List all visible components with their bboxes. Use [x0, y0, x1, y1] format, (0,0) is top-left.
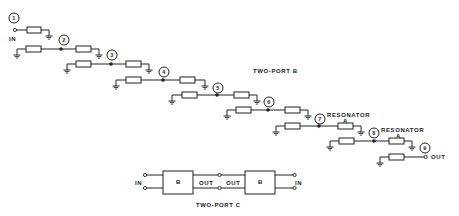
two-port-c-right-out-label: OUT	[226, 180, 240, 186]
ladder-network-diagram: 1 IN 2 3	[0, 0, 459, 216]
two-port-c-left-out-label: OUT	[199, 180, 213, 186]
two-port-c-label: TWO-PORT C	[196, 202, 241, 208]
svg-text:8: 8	[372, 130, 376, 136]
svg-text:3: 3	[110, 52, 114, 58]
two-port-c-right-in-label: IN	[295, 180, 302, 186]
two-port-b-label: TWO-PORT B	[253, 68, 298, 74]
stage-6: 6	[224, 97, 312, 119]
svg-text:6: 6	[267, 99, 271, 105]
in-label: IN	[9, 36, 16, 42]
resonator-sub-label-2: A	[396, 133, 401, 139]
svg-text:1: 1	[12, 15, 16, 21]
stage-2: 2	[14, 35, 103, 58]
svg-text:2: 2	[62, 37, 66, 43]
stage-8: 8 RESONATOR A	[327, 127, 425, 150]
out-label: OUT	[431, 154, 445, 160]
stage-5: 5	[169, 83, 261, 104]
svg-text:7: 7	[318, 116, 322, 122]
svg-text:5: 5	[216, 85, 220, 91]
node-1-input: 1 IN	[9, 13, 53, 42]
resonator-sub-label-1: A	[343, 118, 348, 124]
svg-text:4: 4	[162, 69, 166, 75]
stage-3: 3	[64, 50, 153, 73]
svg-text:9: 9	[423, 145, 427, 151]
resonator-label-2: RESONATOR	[381, 127, 424, 133]
stage-7: 7 RESONATOR A	[273, 112, 371, 135]
stage-4: 4	[113, 67, 209, 89]
svg-text:B: B	[176, 179, 181, 185]
stage-9-output: 9 OUT	[377, 143, 446, 166]
two-port-c: IN B OUT OUT B IN TWO-PORT C	[135, 171, 302, 208]
svg-text:B: B	[258, 179, 263, 185]
resonator-label-1: RESONATOR	[327, 112, 370, 118]
two-port-c-left-in-label: IN	[135, 180, 142, 186]
